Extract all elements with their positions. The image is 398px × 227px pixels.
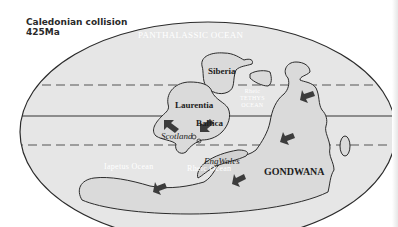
small-east-island [340,136,350,156]
siberia-label: Siberia [208,67,236,76]
page-edge [392,0,398,227]
tethys-ocean-label: Rheic TETHYS OCEAN [240,88,265,109]
tethys-line-2: TETHYS [240,95,265,102]
iapetus-ocean-label: Iapetus Ocean [104,163,153,171]
tethys-line-3: OCEAN [240,102,265,109]
tethys-line-1: Rheic [240,88,265,95]
scotland-label: Scotland [161,132,193,141]
gondwana-label: GONDWANA [264,167,325,177]
panthalassic-ocean-label: PANTHALASSIC OCEAN [138,31,243,40]
laurentia-label: Laurentia [175,101,213,110]
rheic-ocean-label: Rheic Ocean [187,165,231,173]
baltica-label: Baltica [196,119,223,128]
